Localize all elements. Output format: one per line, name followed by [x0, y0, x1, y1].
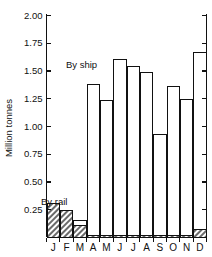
- bar-segment-ship: [154, 134, 166, 237]
- y-axis-title: Million tonnes: [3, 99, 14, 157]
- x-tick-label: J: [51, 242, 56, 253]
- x-tick-label: F: [63, 242, 69, 253]
- bar-segment-ship: [100, 101, 112, 238]
- x-tick-label: A: [90, 242, 97, 253]
- annotation-by-ship: By ship: [66, 59, 97, 70]
- bar-segment-rail: [60, 211, 72, 238]
- bar-segment-ship: [87, 84, 99, 237]
- x-tick-label: M: [102, 242, 110, 253]
- x-tick-label: A: [143, 242, 150, 253]
- y-tick-label: 1.25: [24, 93, 43, 104]
- bar-segment-ship: [114, 60, 126, 238]
- x-tick-label: M: [76, 242, 84, 253]
- y-tick-label: 1.50: [24, 65, 43, 76]
- x-tick-label: D: [196, 242, 203, 253]
- x-tick-label: J: [117, 242, 122, 253]
- bar-segment-ship: [140, 72, 152, 237]
- x-tick-label: N: [183, 242, 190, 253]
- bar-segment-rail: [194, 230, 206, 238]
- chart-container: 2.001.751.501.251.000.750.500.25 JFMAMJJ…: [0, 0, 212, 257]
- stacked-bar-chart: 2.001.751.501.251.000.750.500.25 JFMAMJJ…: [0, 0, 212, 257]
- annotation-by-rail: By rail: [41, 196, 67, 207]
- x-tick-label: O: [169, 242, 177, 253]
- y-tick-label: 0.50: [24, 176, 43, 187]
- y-tick-label: 0.25: [24, 204, 43, 215]
- bar-segment-ship: [167, 87, 179, 238]
- x-tick-label: S: [156, 242, 163, 253]
- bar-segment-ship: [180, 100, 192, 238]
- y-tick-label: 1.00: [24, 121, 43, 132]
- x-tick-label: J: [131, 242, 136, 253]
- bar-segment-rail: [47, 203, 59, 237]
- y-tick-label: 1.75: [24, 37, 43, 48]
- y-tick-label: 2.00: [24, 10, 43, 21]
- bar-segment-rail: [74, 225, 86, 237]
- y-tick-label: 0.75: [24, 148, 43, 159]
- bar-segment-ship: [127, 67, 139, 238]
